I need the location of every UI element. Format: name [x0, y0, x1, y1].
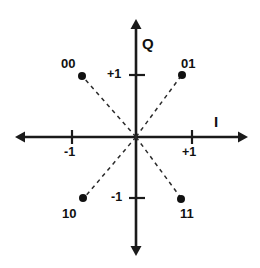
constellation-label-01: 01 [181, 57, 195, 70]
vector-line-01 [136, 76, 181, 137]
vector-line-11 [136, 137, 181, 198]
constellation-plot-area [0, 0, 260, 268]
i-axis-label: I [214, 114, 218, 129]
q-axis-label: Q [142, 36, 154, 51]
constellation-point-01 [178, 71, 186, 79]
constellation-point-00 [78, 72, 86, 80]
i-tick-label-plus-1: +1 [182, 146, 196, 159]
constellation-label-11: 11 [180, 207, 194, 220]
vector-line-10 [84, 137, 136, 198]
q-tick-label-plus-1: +1 [107, 68, 121, 81]
i-axis-arrow-right [238, 132, 248, 143]
qpsk-constellation-diagram: Q I -1 +1 +1 -1 00 01 10 11 [0, 0, 260, 268]
q-axis-arrow-up [131, 19, 142, 29]
constellation-label-00: 00 [61, 57, 75, 70]
i-axis-arrow-left [15, 132, 25, 143]
i-tick-label-minus-1: -1 [64, 146, 75, 159]
vector-line-00 [83, 77, 136, 137]
constellation-point-11 [177, 195, 185, 203]
q-axis-arrow-down [131, 246, 142, 256]
constellation-point-10 [79, 194, 87, 202]
constellation-label-10: 10 [62, 207, 76, 220]
q-tick-label-minus-1: -1 [111, 191, 122, 204]
